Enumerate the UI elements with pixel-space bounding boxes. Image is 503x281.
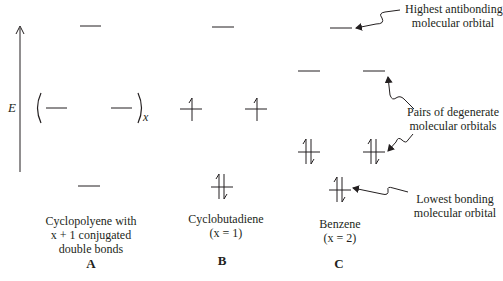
column-a-line1: Cyclopolyene with [37, 214, 145, 228]
c-lowest-level [329, 177, 351, 202]
column-b-levels [180, 27, 267, 199]
a-left-paren [38, 93, 42, 123]
annotation-degenerate-line2: molecular orbitals [405, 119, 501, 133]
column-a-label: Cyclopolyene with x + 1 conjugated doubl… [37, 214, 145, 256]
annotation-degenerate-line1: Pairs of degenerate [405, 105, 501, 119]
annotation-highest: Highest antibonding molecular orbital [405, 2, 501, 30]
annotation-lowest: Lowest bonding molecular orbital [410, 192, 500, 220]
column-a-line3: double bonds [37, 242, 145, 256]
arrow-degenerate-lower-icon [388, 134, 413, 151]
repeat-subscript: x [143, 110, 148, 125]
c-bonding-left [298, 139, 320, 164]
arrow-highest-icon [356, 10, 400, 28]
b-degenerate-right [245, 98, 267, 121]
c-bonding-right [363, 139, 385, 164]
column-a-line2: x + 1 conjugated [37, 228, 145, 242]
column-c-label: Benzene (x = 2) [310, 217, 370, 245]
annotation-lowest-line2: molecular orbital [410, 206, 500, 220]
a-right-paren [138, 93, 142, 123]
column-b-letter: B [212, 253, 232, 269]
annotation-degenerate: Pairs of degenerate molecular orbitals [405, 105, 501, 133]
energy-axis [16, 26, 24, 172]
b-bottom-level [211, 174, 233, 199]
callout-arrows [353, 10, 414, 195]
mo-energy-diagram: E x Cyclopolyene with x + 1 conjugated d… [0, 0, 503, 281]
column-b-line2: (x = 1) [180, 226, 272, 240]
column-c-line1: Benzene [310, 217, 370, 231]
column-b-line1: Cyclobutadiene [180, 212, 272, 226]
column-c-letter: C [329, 256, 349, 272]
arrow-lowest-icon [353, 187, 408, 194]
energy-axis-label: E [8, 100, 16, 116]
column-b-label: Cyclobutadiene (x = 1) [180, 212, 272, 240]
column-a-letter: A [81, 256, 101, 272]
b-degenerate-left [180, 98, 202, 121]
column-c-levels [298, 28, 385, 202]
annotation-lowest-line1: Lowest bonding [410, 192, 500, 206]
annotation-highest-line2: molecular orbital [405, 16, 501, 30]
annotation-highest-line1: Highest antibonding [405, 2, 501, 16]
column-a-levels [38, 26, 142, 186]
column-c-line2: (x = 2) [310, 231, 370, 245]
